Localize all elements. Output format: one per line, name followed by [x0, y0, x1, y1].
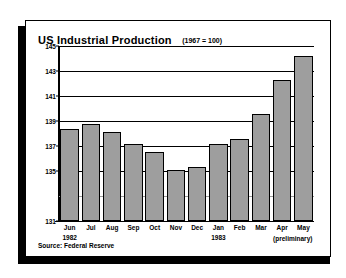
bar-apr: [273, 80, 292, 221]
x-tick-label-feb: Feb: [229, 224, 250, 231]
x-label-col-may: May: [293, 224, 314, 231]
plot-area: 131135137139141143145: [59, 46, 314, 221]
x-tick-label-may: May: [293, 224, 314, 231]
x-tick-label-aug: Aug: [102, 224, 123, 231]
source-note: Source: Federal Reserve: [38, 242, 114, 249]
x-year-label-1983: 1983: [208, 234, 229, 241]
x-label-col-feb: Feb: [229, 224, 250, 231]
x-axis-labels: Jun1982JulAugSepOctNovDecJan1983FebMarAp…: [59, 224, 314, 254]
chart-card: US Industrial Production (1967 = 100) 13…: [25, 20, 331, 257]
x-label-col-jan: Jan1983: [208, 224, 229, 241]
bar-feb: [230, 139, 249, 222]
x-tick-label-oct: Oct: [144, 224, 165, 231]
bar-may: [294, 56, 313, 221]
x-label-col-nov: Nov: [165, 224, 186, 231]
bars-group: [59, 46, 314, 221]
x-label-col-oct: Oct: [144, 224, 165, 231]
x-tick-label-jun: Jun: [59, 224, 80, 231]
bar-mar: [252, 114, 271, 222]
chart-subtitle: (1967 = 100): [182, 37, 222, 44]
y-tick-label-137: 137: [45, 143, 56, 150]
y-tick-label-141: 141: [45, 93, 56, 100]
bar-jun: [60, 129, 79, 222]
bar-dec: [188, 167, 207, 221]
x-year-label-1982: 1982: [59, 234, 80, 241]
x-tick-label-dec: Dec: [187, 224, 208, 231]
x-tick-label-mar: Mar: [250, 224, 271, 231]
y-tick-label-145: 145: [45, 43, 56, 50]
y-tick-label-143: 143: [45, 68, 56, 75]
bar-sep: [124, 144, 143, 222]
x-label-col-apr: Apr: [272, 224, 293, 231]
bar-aug: [103, 132, 122, 221]
bar-nov: [167, 170, 186, 221]
preliminary-note: (preliminary): [272, 235, 315, 242]
chart-figure: US Industrial Production (1967 = 100) 13…: [0, 0, 346, 278]
x-tick-label-jul: Jul: [80, 224, 101, 231]
y-tick-label-131: 131: [45, 218, 56, 225]
x-label-col-jun: Jun1982: [59, 224, 80, 241]
x-label-col-jul: Jul: [80, 224, 101, 231]
x-tick-label-nov: Nov: [165, 224, 186, 231]
x-label-col-sep: Sep: [123, 224, 144, 231]
page-title: US Industrial Production: [38, 34, 172, 46]
x-label-col-dec: Dec: [187, 224, 208, 231]
x-tick-label-jan: Jan: [208, 224, 229, 231]
bar-jan: [209, 144, 228, 222]
x-label-col-aug: Aug: [102, 224, 123, 231]
x-label-col-mar: Mar: [250, 224, 271, 231]
bar-oct: [145, 152, 164, 221]
y-tick-label-135: 135: [45, 168, 56, 175]
x-tick-label-sep: Sep: [123, 224, 144, 231]
bar-jul: [82, 124, 101, 222]
y-tick-label-139: 139: [45, 118, 56, 125]
x-tick-label-apr: Apr: [272, 224, 293, 231]
